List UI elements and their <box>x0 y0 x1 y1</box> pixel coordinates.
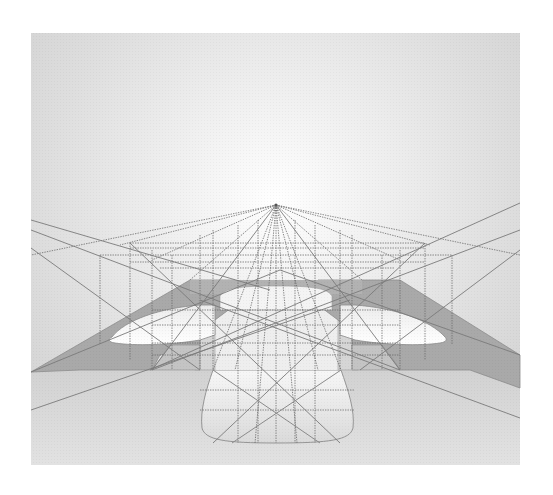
vanishing-point <box>274 203 277 206</box>
perspective-drawing <box>0 0 553 495</box>
